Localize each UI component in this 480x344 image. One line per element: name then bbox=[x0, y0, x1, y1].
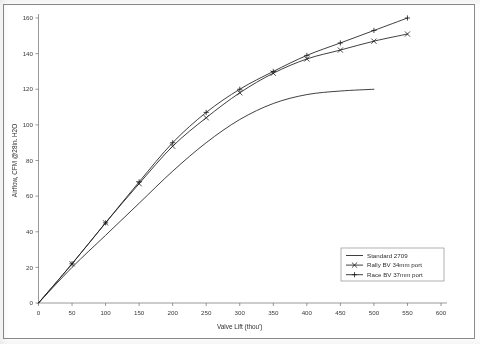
y-tick-label: 80 bbox=[26, 157, 33, 164]
series-line bbox=[39, 89, 374, 303]
y-tick-label: 60 bbox=[26, 192, 33, 199]
y-axis: 020406080100120140160 bbox=[23, 14, 39, 306]
series-1 bbox=[39, 89, 374, 303]
x-tick-label: 200 bbox=[168, 309, 179, 316]
chart-legend: Standard 2709Rally BV 34mm portRace BV 3… bbox=[341, 248, 444, 281]
x-tick-label: 300 bbox=[235, 309, 246, 316]
x-axis: 050100150200250300350400450500550600 bbox=[37, 303, 447, 316]
x-tick-label: 250 bbox=[201, 309, 212, 316]
x-axis-title: Valve Lift (thou') bbox=[217, 323, 263, 331]
x-tick-label: 0 bbox=[37, 309, 41, 316]
scanned-page: 020406080100120140160 050100150200250300… bbox=[0, 0, 480, 344]
y-tick-label: 160 bbox=[23, 14, 34, 21]
y-axis-title: Airflow, CFM @28in. H2O bbox=[11, 124, 18, 197]
y-tick-label: 40 bbox=[26, 228, 33, 235]
x-tick-label: 350 bbox=[268, 309, 279, 316]
axis-titles: Valve Lift (thou')Airflow, CFM @28in. H2… bbox=[11, 124, 263, 331]
x-tick-label: 100 bbox=[100, 309, 111, 316]
x-tick-label: 150 bbox=[134, 309, 145, 316]
chart-canvas: 020406080100120140160 050100150200250300… bbox=[0, 0, 480, 344]
y-tick-label: 100 bbox=[23, 121, 34, 128]
x-tick-label: 450 bbox=[335, 309, 346, 316]
legend-label: Race BV 37mm port bbox=[367, 271, 423, 278]
x-tick-label: 400 bbox=[302, 309, 313, 316]
y-tick-label: 120 bbox=[23, 85, 34, 92]
y-tick-label: 140 bbox=[23, 50, 34, 57]
x-tick-label: 550 bbox=[402, 309, 413, 316]
legend-label: Standard 2709 bbox=[367, 252, 408, 259]
legend-label: Rally BV 34mm port bbox=[367, 261, 422, 268]
airflow-flowbench-chart: 020406080100120140160 050100150200250300… bbox=[0, 0, 480, 344]
x-tick-label: 600 bbox=[436, 309, 447, 316]
x-tick-label: 50 bbox=[69, 309, 76, 316]
y-tick-label: 20 bbox=[26, 264, 33, 271]
y-tick-label: 0 bbox=[30, 299, 34, 306]
x-tick-label: 500 bbox=[369, 309, 380, 316]
